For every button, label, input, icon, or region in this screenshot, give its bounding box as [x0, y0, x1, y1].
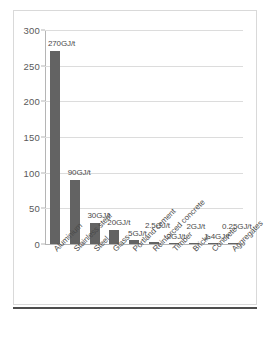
y-tick-mark-200: [41, 101, 45, 102]
y-axis-tick-labels: 050100150200250300: [14, 30, 40, 244]
y-tick-mark-150: [41, 137, 45, 138]
y-tick-label-0: 0: [35, 239, 40, 250]
y-tick-label-150: 150: [24, 132, 40, 143]
y-tick-mark-300: [41, 30, 45, 31]
y-tick-label-300: 300: [24, 25, 40, 36]
bottom-divider-rule: [13, 307, 257, 309]
embodied-energy-bar-chart: 050100150200250300 270GJ/t90GJ/t30GJ/t20…: [13, 10, 257, 305]
y-tick-mark-100: [41, 172, 45, 173]
x-axis-category-labels: AluminiumStainless steelSteelGlassPortla…: [45, 247, 243, 305]
y-tick-label-50: 50: [29, 203, 40, 214]
y-tick-mark-0: [41, 244, 45, 245]
value-label-stainless-steel: 90GJ/t: [68, 168, 91, 177]
y-tick-label-200: 200: [24, 96, 40, 107]
value-label-aluminium: 270GJ/t: [48, 39, 75, 48]
y-tick-mark-250: [41, 65, 45, 66]
value-label-bricks: 2GJ/t: [187, 222, 206, 231]
data-labels-layer: 270GJ/t90GJ/t30GJ/t20GJ/t5GJ/t2.5GJ/t2GJ…: [45, 30, 243, 250]
y-tick-mark-50: [41, 208, 45, 209]
y-tick-label-250: 250: [24, 60, 40, 71]
y-tick-label-100: 100: [24, 167, 40, 178]
